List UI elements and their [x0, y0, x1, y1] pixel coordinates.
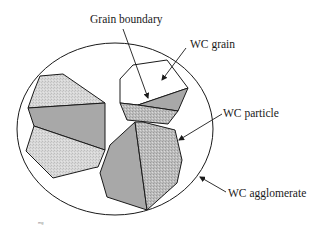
wc-particle-arrow — [179, 114, 222, 140]
top-right-particle — [120, 60, 188, 124]
wc-agglomerate-arrow — [200, 177, 226, 192]
corner-mark: mg — [38, 220, 44, 225]
left-particle-top-grain — [28, 74, 105, 108]
wc-agglomerate-label: WC agglomerate — [228, 187, 306, 200]
left-particle — [26, 74, 105, 178]
wc-particle-label: WC particle — [223, 107, 279, 120]
grain-boundary-label: Grain boundary — [90, 13, 163, 26]
wc-grain-label: WC grain — [190, 38, 235, 51]
wc-agglomerate-diagram: Grain boundary WC grain WC particle WC a… — [0, 0, 313, 228]
bottom-particle — [100, 122, 182, 210]
